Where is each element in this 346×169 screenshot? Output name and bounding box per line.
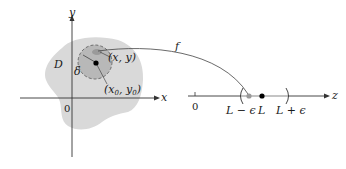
y-axis-label: y xyxy=(68,6,76,19)
limit-label: L xyxy=(257,104,265,117)
z-axis-arrow-icon xyxy=(324,94,330,99)
z-origin-label: 0 xyxy=(192,101,198,112)
left-bound-label: L − ϵ xyxy=(225,104,256,117)
delta-label: δ xyxy=(74,65,81,78)
limit-point xyxy=(259,93,264,98)
right-bound-label: L + ϵ xyxy=(275,104,306,117)
origin-label: 0 xyxy=(64,103,70,114)
x-axis-label: x xyxy=(161,91,168,104)
center-point xyxy=(93,60,98,65)
limit-definition-diagram: D y x 0 δ (x, y) (x0, y0) f z 0 L − ϵ L … xyxy=(0,0,346,169)
region-label: D xyxy=(53,58,63,71)
function-label: f xyxy=(174,40,181,53)
point-xy-label: (x, y) xyxy=(108,51,136,64)
image-point xyxy=(246,93,251,98)
z-axis-label: z xyxy=(331,89,338,102)
x-axis-arrow-icon xyxy=(154,96,160,101)
